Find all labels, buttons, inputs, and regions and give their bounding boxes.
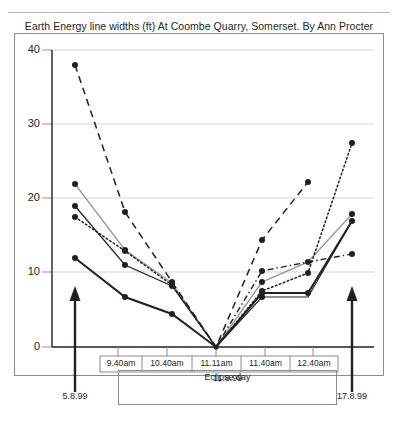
x-start-date-label: 5.8.99 (51, 391, 99, 401)
series-line-1-dashed-long (75, 65, 308, 347)
y-tick-label-20: 20 (14, 191, 40, 203)
annotation-arrow-end (347, 286, 358, 392)
series-line-2-dotted (75, 143, 352, 347)
y-tick-label-0: 0 (14, 340, 40, 352)
series-markers (72, 62, 355, 350)
y-tick-label-30: 30 (14, 117, 40, 129)
y-tick-label-40: 40 (14, 43, 40, 55)
series-line-4-black-solid (75, 206, 352, 347)
y-tick-label-10: 10 (14, 265, 40, 277)
x-end-date-label: 17.8.99 (328, 391, 376, 401)
x-tick-label-1240am: 12.40am (290, 358, 338, 368)
gridlines (48, 50, 374, 272)
series-line-5-dashdot (216, 254, 352, 347)
eclipse-day-line2: 11.8.99 (118, 373, 337, 383)
annotation-arrow-start (70, 286, 81, 392)
y-tick-marks (42, 50, 52, 347)
x-tick-label-1040am: 10.40am (142, 358, 192, 368)
x-tick-label-1140am: 11.40am (241, 358, 290, 368)
x-tick-label-1111am: 11.11am (192, 358, 241, 368)
x-tick-label-0940am: 9.40am (100, 358, 142, 368)
